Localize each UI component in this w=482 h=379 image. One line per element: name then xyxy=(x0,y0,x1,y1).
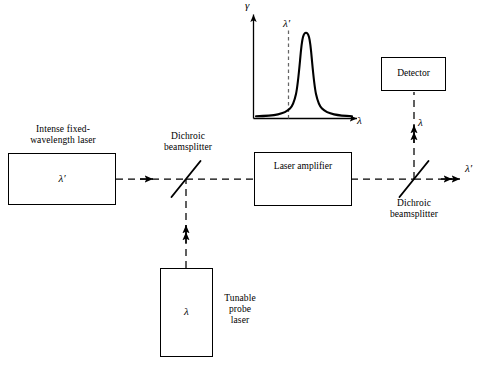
laser-amplifier-label: Laser amplifier xyxy=(255,161,351,171)
inset-plot-axes xyxy=(254,15,358,119)
pump-laser-symbol: λ′ xyxy=(9,172,115,184)
laser-amplifier-box[interactable]: Laser amplifier xyxy=(254,152,352,206)
inset-y-axis-label: γ xyxy=(245,0,249,11)
inset-plot-gain-curve xyxy=(256,33,352,117)
beamsplitter-2-label: Dichroic beamsplitter xyxy=(371,198,457,220)
beamsplitter-1-label: Dichroic beamsplitter xyxy=(145,131,231,153)
probe-laser-label: Tunable probe laser xyxy=(216,293,264,326)
inset-lambda-prime-label: λ′ xyxy=(283,17,290,29)
output-beam-label: λ′ xyxy=(465,162,472,174)
detector-beam-label: λ xyxy=(418,116,423,128)
detector-box[interactable]: Detector xyxy=(381,57,446,91)
figure-canvas: γ λ λ′ Intense fixed- wavelength laser λ… xyxy=(0,0,482,379)
pump-laser-box[interactable]: λ′ xyxy=(8,153,116,205)
pump-laser-label: Intense fixed- wavelength laser xyxy=(8,124,118,146)
inset-x-axis-label: λ xyxy=(357,114,362,126)
probe-laser-box[interactable]: λ xyxy=(160,268,213,357)
probe-laser-symbol: λ xyxy=(161,305,212,317)
detector-label: Detector xyxy=(382,68,445,78)
